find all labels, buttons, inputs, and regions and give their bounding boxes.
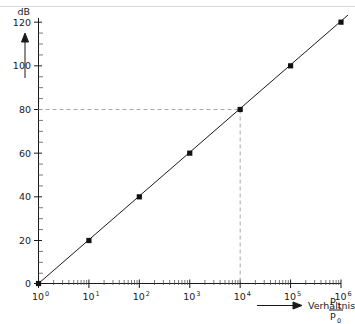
svg-text:0: 0 [45, 290, 49, 298]
y-tick-label-80: 80 [19, 104, 31, 115]
svg-text:10: 10 [82, 291, 94, 302]
x-axis-minor-ticks [54, 280, 339, 285]
data-point-1e5-100db [288, 63, 293, 68]
up-arrow-icon [22, 33, 29, 78]
ratio-denominator-base: P [330, 311, 336, 322]
decibel-ratio-chart: dB 120 100 80 60 40 20 0 [0, 0, 355, 324]
svg-text:10: 10 [133, 291, 145, 302]
svg-text:5: 5 [297, 290, 301, 298]
data-point-1e0-0db [36, 281, 41, 286]
ratio-denominator-sub: 0 [337, 317, 341, 324]
svg-text:3: 3 [196, 290, 200, 298]
svg-text:10: 10 [284, 291, 296, 302]
x-tick-label-1e0: 10 0 [32, 290, 49, 303]
svg-text:10: 10 [183, 291, 195, 302]
y-tick-label-120: 120 [13, 17, 31, 28]
x-tick-label-1e4: 10 4 [234, 290, 251, 303]
x-tick-label-1e3: 10 3 [183, 290, 200, 303]
svg-text:1: 1 [95, 290, 99, 298]
x-tick-label-1e2: 10 2 [133, 290, 150, 303]
data-point-1e4-80db [238, 107, 243, 112]
svg-text:10: 10 [32, 291, 44, 302]
data-point-1e2-40db [137, 194, 142, 199]
svg-text:4: 4 [247, 290, 251, 298]
y-tick-label-20: 20 [19, 235, 31, 246]
y-tick-label-0: 0 [25, 278, 31, 289]
x-tick-label-1e5: 10 5 [284, 290, 301, 303]
ratio-numerator-base: P [330, 296, 336, 307]
data-point-1e6-120db [338, 20, 343, 25]
y-axis-unit-label: dB [17, 6, 30, 17]
chart-page: dB 120 100 80 60 40 20 0 [0, 0, 355, 324]
svg-text:6: 6 [348, 290, 352, 298]
y-tick-label-100: 100 [13, 60, 31, 71]
ratio-numerator-sub: 1 [337, 302, 341, 310]
right-arrow-icon [257, 302, 302, 309]
data-point-1e1-20db [86, 238, 91, 243]
series-line-pegel [39, 15, 349, 284]
data-point-1e3-60db [187, 151, 192, 156]
svg-text:10: 10 [234, 291, 246, 302]
y-tick-label-40: 40 [19, 191, 31, 202]
svg-text:2: 2 [146, 290, 150, 298]
x-tick-label-1e1: 10 1 [82, 290, 99, 303]
y-tick-label-60: 60 [19, 148, 31, 159]
